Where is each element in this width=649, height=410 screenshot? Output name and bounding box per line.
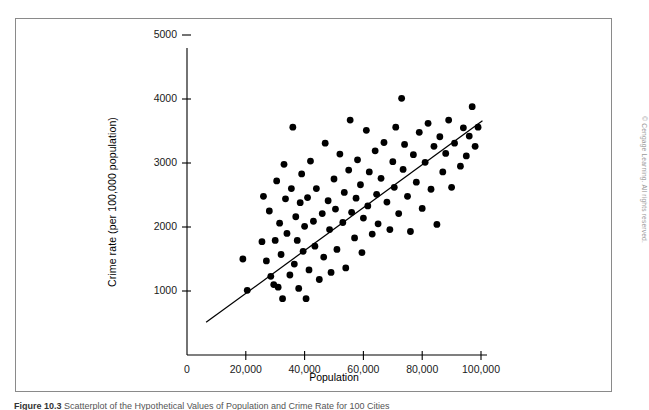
figure-caption: Figure 10.3 Scatterplot of the Hypotheti… xyxy=(14,401,634,410)
y-tick-label: 1000 xyxy=(137,284,177,296)
x-tick-label: 100,000 xyxy=(451,363,511,375)
y-tick-label: 2000 xyxy=(137,220,177,232)
copyright-notice: © Cengage Learning. All rights reserved. xyxy=(641,116,648,243)
figure-frame xyxy=(15,18,612,392)
caption-text: Scatterplot of the Hypothetical Values o… xyxy=(64,401,390,410)
y-tick-label: 3000 xyxy=(137,156,177,168)
caption-label: Figure xyxy=(14,401,42,410)
x-tick-label: 60,000 xyxy=(333,363,393,375)
y-tick-label: 4000 xyxy=(137,92,177,104)
x-tick-label: 40,000 xyxy=(275,363,335,375)
caption-number: 10.3 xyxy=(44,401,62,410)
y-tick-label: 5000 xyxy=(137,28,177,40)
y-axis-title: Crime rate (per 100,000 population) xyxy=(106,82,118,322)
x-tick-label: 0 xyxy=(157,363,217,375)
x-tick-label: 20,000 xyxy=(216,363,276,375)
x-tick-label: 80,000 xyxy=(392,363,452,375)
